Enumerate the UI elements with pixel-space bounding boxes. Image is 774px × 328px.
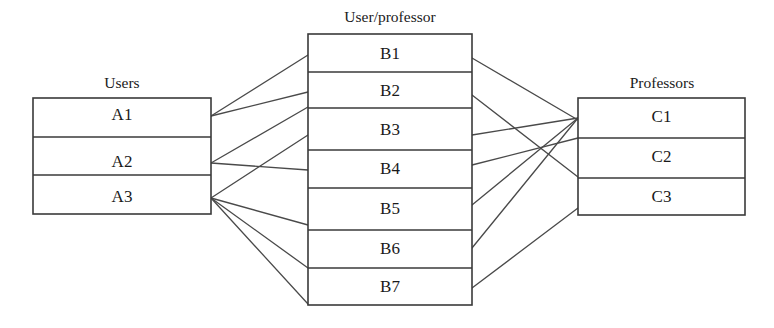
- link-a3-b3: [211, 135, 308, 198]
- link-b1-c1: [472, 58, 578, 120]
- link-a3-b7: [211, 198, 308, 304]
- link-b2-c2: [472, 95, 578, 177]
- link-a3-b5: [211, 198, 308, 225]
- link-a1-b2: [211, 92, 308, 116]
- row-label-a2[interactable]: A2: [112, 152, 133, 171]
- diagram-canvas: UsersA1A2A3User/professorB1B2B3B4B5B6B7P…: [0, 0, 774, 328]
- link-a2-b3: [211, 107, 308, 163]
- table-user_professor: User/professorB1B2B3B4B5B6B7: [308, 8, 472, 305]
- bipartite-diagram-svg: UsersA1A2A3User/professorB1B2B3B4B5B6B7P…: [0, 0, 774, 328]
- table-users: UsersA1A2A3: [33, 74, 211, 214]
- row-label-b4[interactable]: B4: [380, 159, 400, 178]
- edge-group-users-to-userprofessor: [211, 55, 308, 304]
- row-label-b1[interactable]: B1: [380, 44, 400, 63]
- row-label-a1[interactable]: A1: [112, 105, 133, 124]
- row-label-b3[interactable]: B3: [380, 120, 400, 139]
- row-label-c3[interactable]: C3: [652, 187, 672, 206]
- row-label-b5[interactable]: B5: [380, 199, 400, 218]
- row-label-b7[interactable]: B7: [380, 277, 400, 296]
- edge-group-userprofessor-to-professors: [472, 58, 578, 288]
- row-label-a3[interactable]: A3: [112, 187, 133, 206]
- table-title-professors: Professors: [630, 74, 695, 91]
- row-label-b6[interactable]: B6: [380, 239, 400, 258]
- table-professors: ProfessorsC1C2C3: [578, 74, 745, 215]
- link-b6-c3: [472, 118, 578, 248]
- row-label-b2[interactable]: B2: [380, 81, 400, 100]
- link-a1-b1: [211, 55, 308, 116]
- table-title-users: Users: [104, 74, 139, 91]
- link-b7-c3: [472, 208, 578, 288]
- row-label-c2[interactable]: C2: [652, 147, 672, 166]
- row-label-c1[interactable]: C1: [652, 107, 672, 126]
- link-a3-b6: [211, 198, 308, 268]
- table-title-user_professor: User/professor: [344, 8, 436, 25]
- link-b3-c1: [472, 118, 578, 135]
- table-group: UsersA1A2A3User/professorB1B2B3B4B5B6B7P…: [33, 8, 745, 305]
